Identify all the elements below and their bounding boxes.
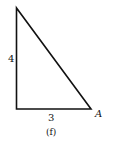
vertex-label-a: A xyxy=(94,108,102,119)
right-triangle xyxy=(17,8,92,109)
triangle-diagram: 4 3 A (f) xyxy=(0,0,115,146)
figure-caption: (f) xyxy=(46,127,56,137)
vertical-side-label: 4 xyxy=(8,53,14,64)
horizontal-side-label: 3 xyxy=(48,112,54,123)
